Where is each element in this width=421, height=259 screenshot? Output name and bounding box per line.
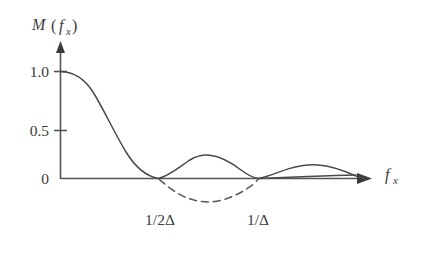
x-axis-label-subscript-x: x	[392, 174, 398, 186]
x-axis-label-f: f	[385, 166, 392, 184]
sinc-magnitude-curve	[61, 72, 365, 179]
sinc-negative-lobe-dashed-curve	[160, 180, 258, 202]
x-axis-label-group: f x	[385, 166, 398, 186]
x-tick-label-half-delta: 1/2Δ	[145, 211, 175, 228]
axis-group	[54, 41, 372, 184]
y-axis-label-subscript-x: x	[65, 25, 71, 37]
y-axis-label-M: M	[31, 16, 47, 33]
y-axis-arrow-icon	[56, 41, 65, 53]
y-axis-label-open-paren: (	[51, 17, 56, 35]
y-tick-label-1point0: 1.0	[30, 63, 50, 80]
y-axis-label-group: M ( f x )	[31, 16, 77, 37]
y-tick-label-0: 0	[41, 170, 49, 187]
mtf-sinc-chart: M ( f x ) f x 1.0 0.5 0 1/2Δ 1/Δ	[0, 0, 421, 259]
y-axis-label-f: f	[59, 17, 66, 35]
figure-container: M ( f x ) f x 1.0 0.5 0 1/2Δ 1/Δ	[0, 0, 421, 259]
x-tick-label-delta: 1/Δ	[247, 211, 269, 228]
y-axis-label-close-paren: )	[72, 17, 77, 35]
y-tick-label-0point5: 0.5	[30, 122, 50, 139]
